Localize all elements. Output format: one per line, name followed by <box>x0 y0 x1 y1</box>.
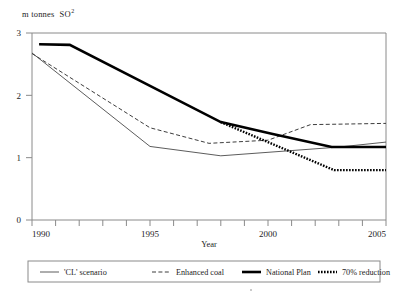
series-line-enhanced-coal <box>32 54 386 144</box>
y-tick-label: 3 <box>17 28 22 38</box>
series-line-national-plan <box>39 44 386 147</box>
y-axis-unit-main: m tonnes <box>22 9 55 19</box>
y-tick-label: 1 <box>17 153 22 163</box>
legend-label-1: Enhanced coal <box>176 268 225 277</box>
line-chart-svg: 0123 1990199520002005 Year 'CL' scenario… <box>0 0 417 297</box>
chart-figure: m tonnesSO2 0123 1990199520002005 Year '… <box>0 0 417 297</box>
y-axis-unit-superscript: 2 <box>71 8 74 14</box>
x-tick-label: 2000 <box>259 229 278 239</box>
x-axis-title: Year <box>201 239 217 249</box>
legend-label-2: National Plan <box>266 268 311 277</box>
x-axis-ticks: 1990199520002005 <box>32 220 387 239</box>
y-tick-label: 0 <box>17 215 22 225</box>
y-axis-unit-species: SO <box>60 9 71 19</box>
y-axis-unit-label: m tonnesSO2 <box>22 8 75 19</box>
page-artifact-dot <box>250 289 252 291</box>
legend-label-0: 'CL' scenario <box>64 268 107 277</box>
legend-label-3: 70% reduction <box>342 268 390 277</box>
x-tick-label: 1995 <box>141 229 160 239</box>
data-series-group <box>32 44 386 170</box>
axis-frame <box>32 33 386 220</box>
y-axis-ticks: 0123 <box>17 28 33 225</box>
x-tick-label: 2005 <box>368 229 387 239</box>
y-tick-label: 2 <box>17 91 22 101</box>
x-tick-label: 1990 <box>32 229 51 239</box>
series-line--cl-scenario <box>32 53 386 156</box>
